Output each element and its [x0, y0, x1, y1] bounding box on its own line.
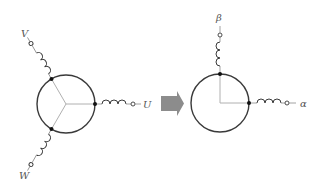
terminal-w-icon	[28, 162, 33, 167]
terminal-u-icon	[131, 102, 135, 106]
phase-w-lead	[26, 128, 55, 173]
node-w-icon	[50, 127, 54, 131]
inductor-alpha-icon	[257, 99, 281, 103]
phase-u-lead	[93, 100, 141, 106]
two-phase-winding: α β	[191, 12, 307, 132]
inductor-w-icon	[37, 134, 52, 157]
three-phase-winding: U V W	[19, 28, 152, 181]
label-v: V	[21, 28, 30, 39]
terminal-alpha-icon	[285, 101, 289, 105]
label-beta: β	[215, 12, 222, 23]
terminal-beta-icon	[218, 33, 222, 37]
spoke-w	[52, 104, 67, 129]
phase-v-lead	[26, 35, 55, 80]
inductor-v-icon	[37, 51, 52, 74]
phase-alpha-lead	[249, 99, 296, 105]
node-beta-icon	[218, 72, 222, 76]
inductor-beta-icon	[216, 42, 220, 66]
phase-beta-lead	[216, 26, 222, 74]
transform-arrow-icon	[161, 91, 184, 116]
label-alpha: α	[300, 98, 307, 109]
spoke-v	[52, 79, 67, 104]
terminal-v-icon	[28, 41, 33, 46]
node-u-icon	[93, 102, 97, 106]
label-u: U	[143, 99, 152, 110]
node-v-icon	[50, 77, 54, 81]
label-w: W	[19, 170, 30, 181]
node-alpha-icon	[247, 101, 251, 105]
inductor-u-icon	[102, 100, 126, 104]
clarke-transform-diagram: U V W α β	[0, 0, 321, 189]
